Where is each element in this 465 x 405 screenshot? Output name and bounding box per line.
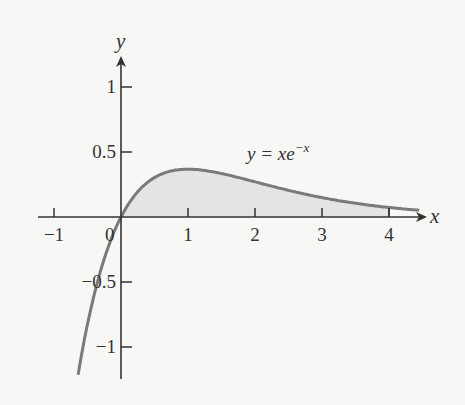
function-label-main: y = xe [245,143,295,164]
y-axis-label: y [114,29,126,53]
y-tick-label: 0.5 [92,141,116,162]
x-tick-label: 4 [384,224,394,245]
function-label-exponent: −x [295,140,310,155]
x-axis-label: x [429,204,440,228]
origin-label: 0 [105,224,115,245]
y-tick-label: −0.5 [82,271,116,292]
function-label: y = xe−x [245,140,309,164]
y-tick-label: −1 [96,336,116,357]
axes [38,56,427,379]
x-tick-label: 1 [183,224,193,245]
x-tick-label: 2 [250,224,260,245]
x-tick-label: −1 [44,224,64,245]
chart-canvas: −11234 10.5−0.5−1 0 x y y = xe−x [0,0,465,405]
x-tick-label: 3 [317,224,327,245]
y-tick-label: 1 [107,76,117,97]
